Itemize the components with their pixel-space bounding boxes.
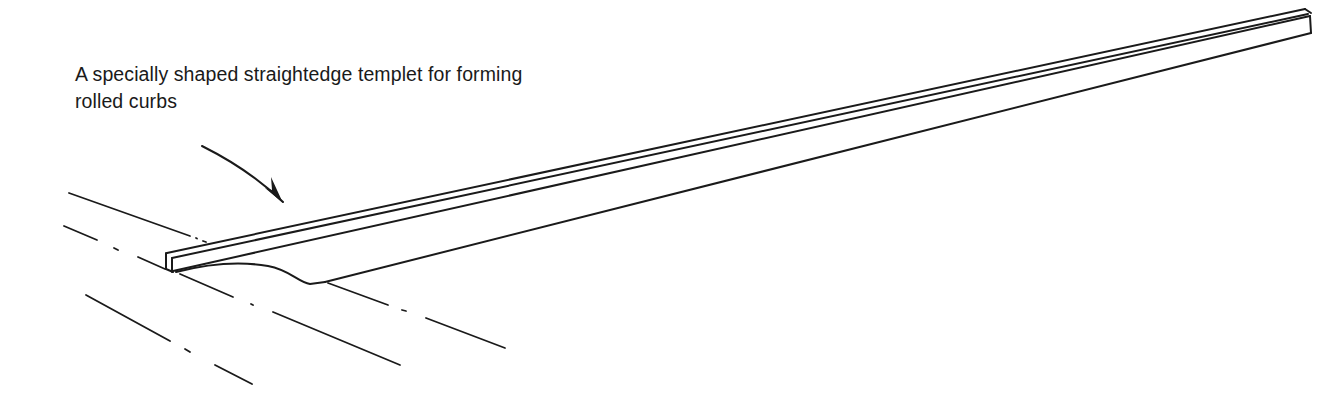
templet-drawing <box>0 0 1330 405</box>
curb-form-lines <box>64 193 505 384</box>
illustration-canvas: A specially shaped straightedge templet … <box>0 0 1330 405</box>
straightedge-templet <box>166 9 1311 284</box>
leader-arrow-icon <box>202 146 283 203</box>
